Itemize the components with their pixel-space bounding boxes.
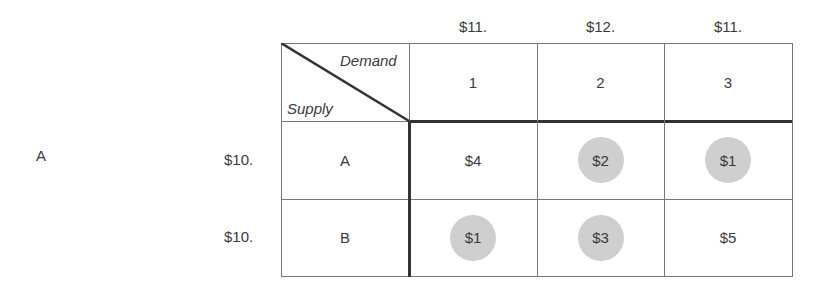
allocation-circle: $1 (705, 137, 751, 183)
cell-value: $2 (592, 152, 609, 169)
column-header-3: 3 (664, 43, 792, 121)
demand-price-3: $11. (664, 18, 792, 35)
cell-b-3: $5 (664, 199, 792, 276)
supply-price-a: $10. (224, 151, 253, 168)
corner-supply-label: Supply (287, 100, 333, 117)
cell-value: $3 (592, 229, 609, 246)
demand-price-1: $11. (409, 18, 537, 35)
cell-b-2: $3 (537, 199, 664, 276)
cell-value: $1 (720, 152, 737, 169)
allocation-circle: $2 (578, 137, 624, 183)
cell-value: $1 (465, 229, 482, 246)
allocation-circle: $3 (578, 215, 624, 261)
cell-value: $5 (720, 229, 737, 246)
column-header-1: 1 (409, 43, 537, 121)
side-label: A (36, 147, 46, 164)
cell-a-3: $1 (664, 121, 792, 199)
allocation-circle: $1 (450, 215, 496, 261)
row-label-a: A (281, 121, 409, 199)
row-label-b: B (281, 199, 409, 276)
supply-price-b: $10. (224, 228, 253, 245)
cell-b-1: $1 (409, 199, 537, 276)
cell-a-1: $4 (409, 121, 537, 199)
cell-value: $4 (465, 152, 482, 169)
cell-a-2: $2 (537, 121, 664, 199)
demand-price-2: $12. (537, 18, 664, 35)
column-header-2: 2 (537, 43, 664, 121)
corner-demand-label: Demand (340, 52, 397, 69)
